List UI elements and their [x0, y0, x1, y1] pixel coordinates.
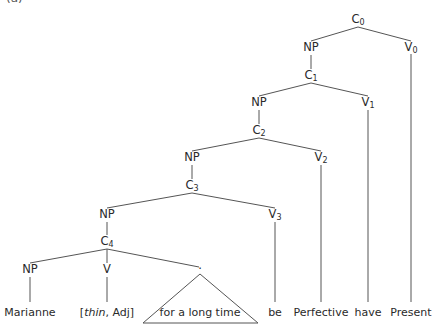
edge-c3-np [107, 193, 192, 208]
leaf-perfective: Perfective [294, 306, 349, 319]
node-v2: V2 [315, 152, 328, 165]
node-np-4: NP [22, 264, 38, 276]
node-np-2: NP [184, 152, 200, 164]
node-c4: C4 [100, 236, 113, 249]
leaf-have: have [355, 306, 382, 319]
node-c3: C3 [185, 180, 198, 193]
tree-edges [0, 0, 438, 332]
node-np-3: NP [99, 209, 115, 221]
edge-c1-v1 [311, 83, 368, 96]
node-c2: C2 [252, 125, 265, 138]
leaf-for-a-long-time: for a long time [160, 306, 241, 319]
node-np-0: NP [303, 42, 319, 54]
syntax-tree-diagram: (a) [0, 0, 438, 332]
edge-c2-np [192, 138, 259, 151]
edge-c0-v0 [358, 27, 411, 41]
edge-c1-np [259, 83, 311, 96]
leaf-thin-adj: [thin, Adj] [80, 306, 134, 319]
node-v0: V0 [405, 42, 418, 55]
node-v: V [103, 264, 111, 276]
leaf-present: Present [390, 306, 431, 319]
edge-c0-np [311, 27, 358, 41]
edge-c2-v2 [259, 138, 321, 151]
node-v1: V1 [362, 97, 375, 110]
node-c0: C0 [351, 14, 364, 27]
node-c1: C1 [304, 70, 317, 83]
node-np-1: NP [251, 97, 267, 109]
leaf-be: be [268, 306, 282, 319]
node-v3: V3 [269, 209, 282, 222]
node-dot: . [198, 260, 202, 272]
edge-c4-np [30, 249, 107, 263]
edge-c4-dot [107, 249, 199, 267]
edge-c3-v3 [192, 193, 275, 208]
leaf-marianne: Marianne [4, 306, 55, 319]
